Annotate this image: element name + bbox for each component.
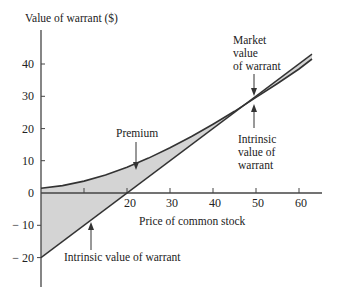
intrinsic-value-right-arrow [251, 104, 257, 128]
intrinsic-value-right-label-line3: warrant [238, 159, 274, 171]
x-tick-label-30: 30 [166, 196, 178, 210]
y-tick-label-neg20: − 20 [12, 251, 34, 265]
y-tick-label-20: 20 [22, 122, 34, 136]
y-axis-title: Value of warrant ($) [25, 12, 118, 25]
y-tick-label-10: 10 [22, 154, 34, 168]
x-tick-label-60: 60 [295, 196, 307, 210]
y-tick-label-30: 30 [22, 89, 34, 103]
intrinsic-value-right-label-line1: Intrinsic [238, 133, 276, 145]
intrinsic-value-bottom-label: Intrinsic value of warrant [64, 251, 181, 263]
x-axis-title: Price of common stock [139, 215, 246, 227]
y-tick-label-40: 40 [22, 57, 34, 71]
x-tick-label-50: 50 [252, 196, 264, 210]
market-value-label-line2: value [233, 47, 258, 59]
y-tick-label-0: 0 [28, 186, 34, 200]
premium-label: Premium [116, 127, 158, 139]
market-value-arrow [251, 74, 257, 96]
intrinsic-value-bottom-arrow [88, 222, 94, 250]
x-tick-label-20: 20 [124, 196, 136, 210]
market-value-label-line3: of warrant [233, 60, 281, 72]
intrinsic-value-right-label-line2: value of [238, 146, 276, 158]
warrant-value-chart: 40 30 20 10 0 − 10 − 20 20 30 40 50 60 V… [0, 0, 345, 290]
market-value-label-line1: Market [233, 34, 267, 46]
y-tick-label-neg10: − 10 [12, 218, 34, 232]
x-tick-label-40: 40 [209, 196, 221, 210]
